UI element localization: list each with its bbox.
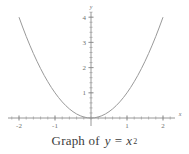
y-axis-label: y [89, 4, 93, 10]
caption-equals-sign: = [112, 133, 126, 149]
x-axis-label: x [178, 111, 182, 117]
y-tick-label: 1 [83, 89, 87, 97]
caption-exponent: 2 [133, 137, 137, 146]
y-tick-label: 4 [83, 14, 87, 22]
figure-caption: Graph ofy=x2 [0, 128, 189, 154]
parabola-plot: -2-112 1234 x y [0, 0, 189, 128]
caption-base-variable: x [125, 133, 133, 149]
caption-lhs-variable: y [104, 133, 112, 149]
caption-text: Graph of [52, 133, 104, 149]
plot-area: -2-112 1234 x y [0, 0, 189, 128]
y-tick-label: 2 [83, 64, 87, 72]
y-tick-label: 3 [83, 39, 87, 47]
y-axis-tick-labels: 1234 [83, 14, 87, 98]
figure-container: -2-112 1234 x y Graph ofy=x2 [0, 0, 189, 154]
